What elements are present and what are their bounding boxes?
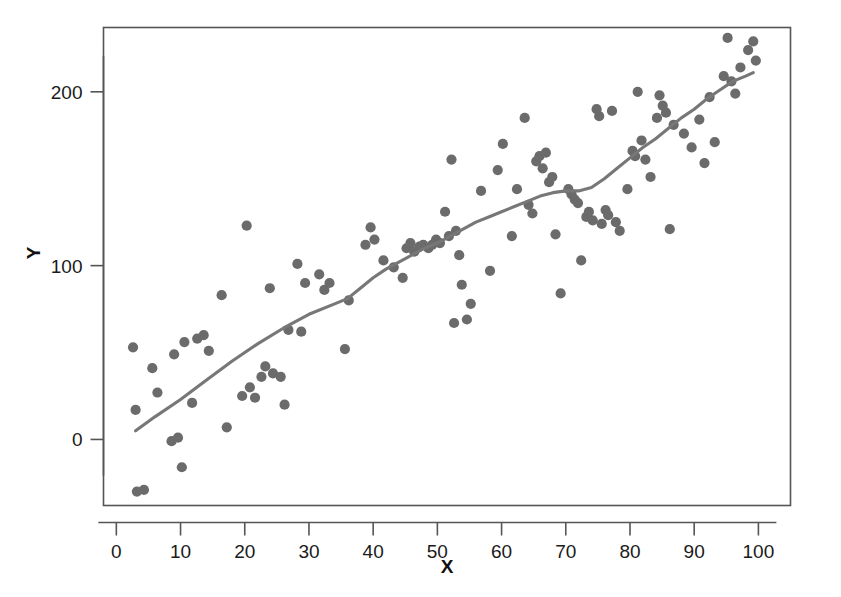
data-point	[547, 172, 557, 182]
data-point	[366, 222, 376, 232]
data-point	[446, 155, 456, 165]
data-point	[722, 33, 732, 43]
data-point	[748, 36, 758, 46]
data-point	[743, 45, 753, 55]
x-tick-label: 80	[619, 541, 640, 562]
x-tick-label: 0	[111, 541, 122, 562]
data-point	[611, 217, 621, 227]
data-point	[152, 387, 162, 397]
data-point	[654, 90, 664, 100]
x-axis-title: X	[441, 556, 454, 577]
data-point	[588, 215, 598, 225]
data-point	[279, 400, 289, 410]
data-point	[222, 422, 232, 432]
data-point	[538, 163, 548, 173]
scatter-plot-figure: 0100200 0102030405060708090100 X Y	[0, 0, 841, 597]
data-point	[476, 186, 486, 196]
data-point	[665, 224, 675, 234]
data-point	[340, 344, 350, 354]
data-point	[661, 108, 671, 118]
data-point	[300, 278, 310, 288]
data-point	[147, 363, 157, 373]
data-point	[314, 269, 324, 279]
data-point	[292, 259, 302, 269]
data-point	[645, 172, 655, 182]
data-point	[128, 342, 138, 352]
data-point	[462, 314, 472, 324]
data-point	[405, 238, 415, 248]
y-tick-label: 100	[51, 256, 83, 277]
data-point	[485, 266, 495, 276]
data-point	[440, 207, 450, 217]
data-point	[237, 391, 247, 401]
data-point	[735, 62, 745, 72]
data-point	[751, 55, 761, 65]
data-point	[573, 198, 583, 208]
data-point	[615, 226, 625, 236]
data-point	[187, 398, 197, 408]
data-point	[710, 137, 720, 147]
data-point	[131, 405, 141, 415]
data-point	[576, 255, 586, 265]
data-point	[245, 382, 255, 392]
data-point	[597, 219, 607, 229]
data-point	[541, 148, 551, 158]
data-point	[607, 106, 617, 116]
data-point	[179, 337, 189, 347]
data-point	[493, 165, 503, 175]
data-point	[527, 208, 537, 218]
data-point	[679, 128, 689, 138]
data-point	[633, 87, 643, 97]
data-point	[520, 113, 530, 123]
data-point	[694, 115, 704, 125]
figure-background	[0, 0, 841, 597]
data-point	[265, 283, 275, 293]
data-point	[556, 288, 566, 298]
data-point	[730, 88, 740, 98]
y-tick-label: 0	[72, 429, 83, 450]
data-point	[498, 139, 508, 149]
data-point	[177, 462, 187, 472]
data-point	[449, 318, 459, 328]
data-point	[466, 299, 476, 309]
data-point	[276, 372, 286, 382]
data-point	[454, 250, 464, 260]
data-point	[199, 330, 209, 340]
data-point	[324, 278, 334, 288]
data-point	[378, 255, 388, 265]
x-tick-label: 20	[234, 541, 255, 562]
x-tick-label: 70	[555, 541, 576, 562]
data-point	[173, 433, 183, 443]
data-point	[687, 142, 697, 152]
x-tick-label: 100	[743, 541, 775, 562]
data-point	[139, 485, 149, 495]
data-point	[603, 210, 613, 220]
data-point	[204, 346, 214, 356]
data-point	[640, 155, 650, 165]
data-point	[256, 372, 266, 382]
x-tick-label: 90	[684, 541, 705, 562]
x-tick-label: 10	[170, 541, 191, 562]
y-axis-title: Y	[23, 246, 44, 259]
data-point	[296, 327, 306, 337]
data-point	[217, 290, 227, 300]
x-tick-label: 60	[491, 541, 512, 562]
x-tick-label: 30	[298, 541, 319, 562]
y-tick-label: 200	[51, 82, 83, 103]
data-point	[622, 184, 632, 194]
data-point	[512, 184, 522, 194]
data-point	[369, 234, 379, 244]
data-point	[652, 113, 662, 123]
data-point	[242, 221, 252, 231]
data-point	[457, 280, 467, 290]
data-point	[507, 231, 517, 241]
x-tick-label: 40	[363, 541, 384, 562]
data-point	[584, 207, 594, 217]
data-point	[260, 361, 270, 371]
data-point	[550, 229, 560, 239]
data-point	[250, 393, 260, 403]
data-point	[360, 240, 370, 250]
data-point	[169, 349, 179, 359]
data-point	[594, 111, 604, 121]
data-point	[398, 273, 408, 283]
